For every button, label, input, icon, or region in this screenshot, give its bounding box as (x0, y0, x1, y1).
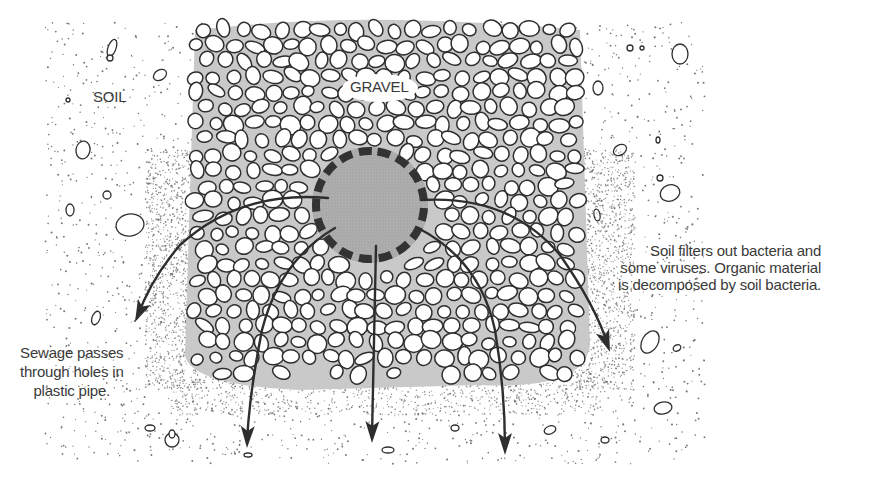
soil-filter-caption-line-3: is decomposed by soil bacteria. (618, 276, 821, 293)
soil-filter-caption-line-2: some viruses. Organic material (618, 259, 821, 276)
sewage-caption-line-3: plastic pipe. (20, 381, 124, 400)
sewage-caption-line-2: through holes in (20, 362, 124, 381)
soil-filter-caption: Soil filters out bacteria and some virus… (618, 242, 821, 293)
soil-label: SOIL (93, 88, 126, 105)
soil-filter-caption-line-1: Soil filters out bacteria and (618, 242, 821, 259)
sewage-caption: Sewage passes through holes in plastic p… (20, 343, 124, 400)
septic-diagram: SOIL GRAVEL Sewage passes through holes … (0, 0, 885, 497)
sewage-caption-line-1: Sewage passes (20, 343, 124, 362)
gravel-label: GRAVEL (348, 78, 411, 95)
